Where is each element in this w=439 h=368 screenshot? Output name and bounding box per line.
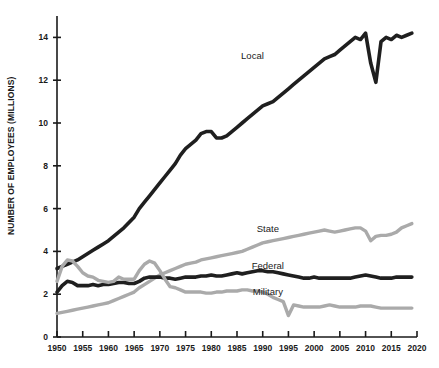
- y-tick-label: 6: [43, 204, 48, 214]
- y-tick-label: 4: [43, 246, 48, 256]
- x-tick-label: 1975: [176, 343, 195, 353]
- x-tick-label: 1970: [150, 343, 169, 353]
- x-tick-label: 1955: [73, 343, 92, 353]
- y-tick-label: 8: [43, 161, 48, 171]
- x-tick-label: 1990: [253, 343, 272, 353]
- series-label-local: Local: [241, 50, 264, 61]
- series-label-federal: Federal: [252, 260, 284, 271]
- x-tick-label: 2005: [330, 343, 349, 353]
- line-chart: 02468101214 1950195519601965197019751980…: [0, 0, 439, 368]
- series-label-military: Military: [253, 286, 283, 297]
- x-tick-label: 2015: [382, 343, 401, 353]
- x-tick-label: 1950: [48, 343, 67, 353]
- series-label-state: State: [257, 223, 279, 234]
- y-tick-label: 14: [39, 32, 49, 42]
- x-tick-label: 1980: [202, 343, 221, 353]
- chart-container: 02468101214 1950195519601965197019751980…: [0, 0, 439, 368]
- y-tick-label: 12: [39, 75, 49, 85]
- x-tick-label: 2020: [408, 343, 427, 353]
- y-tick-label: 10: [39, 118, 49, 128]
- x-tick-label: 1960: [99, 343, 118, 353]
- y-tick-label: 0: [43, 332, 48, 342]
- x-tick-label: 1965: [125, 343, 144, 353]
- x-tick-label: 2000: [305, 343, 324, 353]
- x-tick-label: 1985: [228, 343, 247, 353]
- x-tick-label: 1995: [279, 343, 298, 353]
- y-axis-title: NUMBER OF EMPLOYEES (MILLIONS): [6, 77, 16, 235]
- y-tick-label: 2: [43, 289, 48, 299]
- x-tick-label: 2010: [356, 343, 375, 353]
